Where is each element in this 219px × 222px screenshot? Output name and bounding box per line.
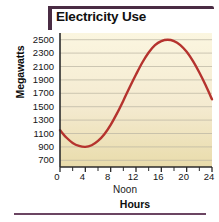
x-tick-label: 16	[146, 171, 170, 182]
x-tick-label: 8	[96, 171, 120, 182]
x-axis-title: Hours	[55, 198, 215, 210]
x-tick-label: 20	[172, 171, 196, 182]
figure-bottom-rule	[14, 213, 206, 215]
x-tick-label: 24	[197, 171, 219, 182]
x-tick-label: 12	[121, 171, 145, 182]
noon-annotation: Noon	[102, 184, 148, 195]
figure-electricity-use: Electricity Use Megawatts 70090011001300…	[0, 0, 219, 222]
x-tick-label: 4	[70, 171, 94, 182]
x-tick-label: 0	[45, 171, 69, 182]
